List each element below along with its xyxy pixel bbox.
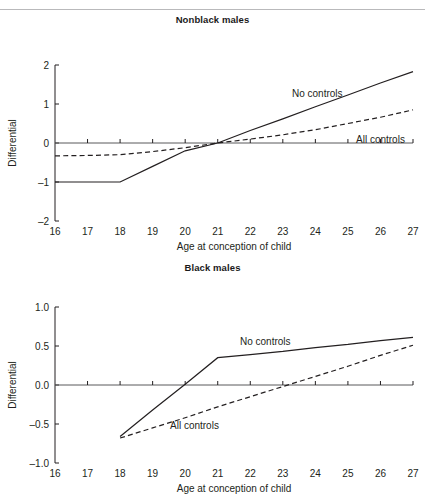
series-line-all-controls: [120, 345, 413, 438]
y-axis-tick-label: 0.5: [35, 341, 49, 352]
x-axis-tick-label: 21: [212, 468, 224, 479]
header-divider: [0, 9, 425, 10]
x-axis-tick-label: 18: [115, 226, 127, 237]
y-axis-tick-label: 0: [43, 138, 49, 149]
chart-panel-black-males: Black males 1.00.50.0–0.5–1.016171819202…: [0, 262, 425, 502]
y-axis-tick-label: 1: [43, 99, 49, 110]
y-axis-tick-label: –2: [38, 216, 50, 227]
series-line-all-controls: [55, 110, 413, 156]
y-axis-title: Differential: [7, 361, 18, 409]
x-axis-tick-label: 17: [82, 468, 94, 479]
x-axis-tick-label: 16: [49, 468, 61, 479]
series-line-no-controls: [55, 72, 413, 182]
y-axis-title: Differential: [7, 119, 18, 167]
x-axis-tick-label: 21: [212, 226, 224, 237]
x-axis-tick-label: 22: [245, 226, 257, 237]
panel-title-black: Black males: [0, 262, 425, 273]
x-axis-tick-label: 25: [342, 226, 354, 237]
x-axis-title: Age at conception of child: [177, 483, 292, 494]
x-axis-tick-label: 16: [49, 226, 61, 237]
x-axis-tick-label: 17: [82, 226, 94, 237]
x-axis-tick-label: 27: [407, 468, 419, 479]
x-axis-tick-label: 26: [375, 226, 387, 237]
y-axis-tick-label: 2: [43, 60, 49, 71]
x-axis-tick-label: 22: [245, 468, 257, 479]
chart-svg-nonblack: 210–1–2161718192021222324252627No contro…: [0, 25, 425, 253]
x-axis-tick-label: 25: [342, 468, 354, 479]
x-axis-tick-label: 24: [310, 226, 322, 237]
x-axis-title: Age at conception of child: [177, 241, 292, 252]
x-axis-tick-label: 23: [277, 468, 289, 479]
x-axis-tick-label: 19: [147, 226, 159, 237]
x-axis-tick-label: 20: [180, 468, 192, 479]
x-axis-tick-label: 20: [180, 226, 192, 237]
x-axis-tick-label: 26: [375, 468, 387, 479]
chart-svg-black: 1.00.50.0–0.5–1.016171819202122232425262…: [0, 273, 425, 495]
series-label-all_controls: All controls: [170, 420, 219, 431]
series-label-all_controls: All controls: [356, 134, 405, 145]
x-axis-tick-label: 23: [277, 226, 289, 237]
x-axis-tick-label: 19: [147, 468, 159, 479]
series-label-no_controls: No controls: [292, 88, 343, 99]
y-axis-tick-label: –1: [38, 177, 50, 188]
x-axis-tick-label: 24: [310, 468, 322, 479]
y-axis-tick-label: 1.0: [35, 302, 49, 313]
x-axis-tick-label: 18: [115, 468, 127, 479]
series-line-no-controls: [120, 337, 413, 436]
panel-title-nonblack: Nonblack males: [0, 14, 425, 25]
chart-panel-nonblack-males: Nonblack males 210–1–2161718192021222324…: [0, 14, 425, 260]
y-axis-tick-label: –1.0: [30, 458, 50, 469]
series-label-no_controls: No controls: [240, 336, 291, 347]
y-axis-tick-label: –0.5: [30, 419, 50, 430]
y-axis-tick-label: 0.0: [35, 380, 49, 391]
x-axis-tick-label: 27: [407, 226, 419, 237]
